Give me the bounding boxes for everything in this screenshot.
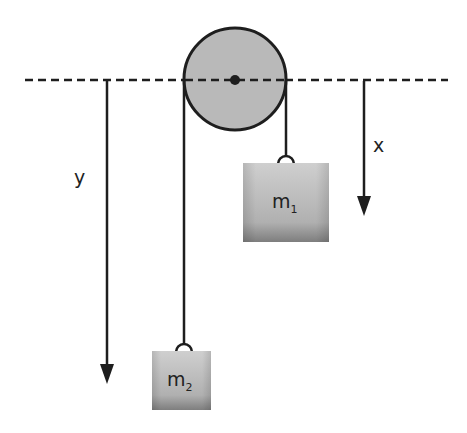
arrowhead-icon — [357, 196, 371, 216]
x-axis-label: x — [373, 134, 384, 156]
y-axis-label: y — [74, 166, 85, 188]
hook-icon — [278, 156, 294, 164]
atwood-machine-diagram: m1 m2 y x — [0, 0, 467, 433]
arrowhead-icon — [100, 364, 114, 384]
hook-icon — [176, 344, 192, 352]
y-axis-arrow — [100, 81, 114, 384]
x-axis-arrow — [357, 81, 371, 216]
mass-2-block: m2 — [152, 344, 211, 410]
mass-1-block: m1 — [243, 156, 329, 242]
pulley-axle — [230, 75, 240, 85]
pulley — [184, 28, 286, 130]
